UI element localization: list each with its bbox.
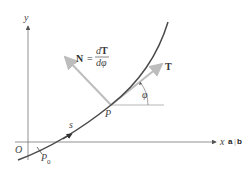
arc-length-label: s [69,119,73,130]
curvature-diagram: y x O P0 P s T φ N = dT dφ a | b [0,0,242,174]
svg-text:b: b [237,137,242,146]
svg-text:dT: dT [96,45,108,56]
svg-text:|: | [234,137,236,146]
panel-label: a | b [228,137,242,146]
y-axis-label: y [23,12,29,23]
origin-label: O [15,144,22,155]
normal-equation: N = dT dφ [76,45,109,68]
svg-text:=: = [87,53,93,64]
angle-label: φ [142,89,148,100]
x-axis-label: x [219,136,225,147]
svg-text:dφ: dφ [96,57,107,68]
tangent-label: T [165,61,172,72]
svg-text:a: a [228,137,233,146]
p0-label: P0 [40,152,51,166]
svg-text:N: N [76,53,84,64]
p-label: P [104,108,111,119]
